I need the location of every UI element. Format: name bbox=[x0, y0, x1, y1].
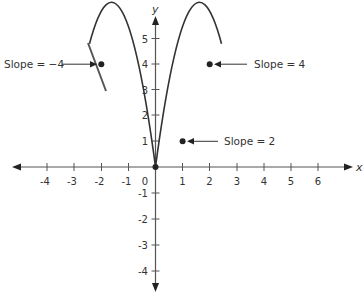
svg-text:-3: -3 bbox=[138, 240, 148, 251]
svg-text:-4: -4 bbox=[138, 266, 148, 277]
svg-text:-3: -3 bbox=[67, 176, 77, 187]
svg-text:-2: -2 bbox=[138, 214, 148, 225]
svg-text:0: 0 bbox=[142, 176, 148, 187]
svg-text:-1: -1 bbox=[138, 188, 148, 199]
parabola-graph: -4 -3 -2 -1 0 1 2 3 4 5 6 1 2 3 4 5 -1 -… bbox=[0, 0, 363, 303]
slope-4-label: Slope = 4 bbox=[254, 58, 306, 70]
arrow-icon bbox=[187, 138, 194, 144]
svg-text:2: 2 bbox=[206, 176, 212, 187]
slope-neg4-label: Slope = −4 bbox=[4, 58, 64, 70]
svg-text:1: 1 bbox=[179, 176, 185, 187]
point-origin bbox=[153, 164, 159, 170]
svg-text:-1: -1 bbox=[122, 176, 132, 187]
y-axis-up-arrow-icon bbox=[152, 16, 159, 25]
arrow-icon bbox=[214, 61, 221, 67]
svg-text:5: 5 bbox=[288, 176, 294, 187]
point-neg2-4 bbox=[98, 61, 104, 67]
x-axis-label: x bbox=[355, 161, 363, 174]
svg-text:1: 1 bbox=[142, 136, 148, 147]
x-tick-labels: -4 -3 -2 -1 0 1 2 3 4 5 6 bbox=[40, 176, 321, 187]
svg-text:4: 4 bbox=[261, 176, 267, 187]
svg-text:4: 4 bbox=[142, 59, 148, 70]
x-axis-right-arrow-icon bbox=[344, 164, 353, 171]
point-1-1 bbox=[180, 138, 186, 144]
annotation-arrows bbox=[62, 61, 247, 145]
y-axis-down-arrow-icon bbox=[152, 283, 159, 292]
svg-text:6: 6 bbox=[315, 176, 321, 187]
point-2-4 bbox=[207, 61, 213, 67]
slope-2-label: Slope = 2 bbox=[224, 135, 275, 147]
x-axis-left-arrow-icon bbox=[12, 164, 21, 171]
svg-text:3: 3 bbox=[234, 176, 240, 187]
y-axis-label: y bbox=[151, 3, 159, 16]
svg-text:5: 5 bbox=[142, 34, 148, 45]
svg-text:-4: -4 bbox=[40, 176, 50, 187]
svg-text:-2: -2 bbox=[95, 176, 105, 187]
